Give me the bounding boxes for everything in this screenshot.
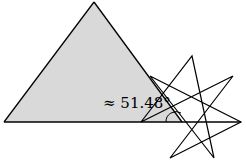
diagram-canvas: ≈ 51.48° bbox=[0, 0, 246, 168]
diagram-svg: ≈ 51.48° bbox=[0, 0, 246, 168]
angle-label: ≈ 51.48° bbox=[103, 94, 171, 112]
